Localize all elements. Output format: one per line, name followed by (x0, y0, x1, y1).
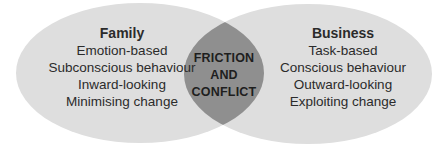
business-label-block: Business Task-based Conscious behaviour … (258, 25, 428, 110)
overlap-line: CONFLICT (184, 84, 264, 101)
business-item: Exploiting change (258, 93, 428, 110)
overlap-line: AND (184, 67, 264, 84)
business-item: Outward-looking (258, 76, 428, 93)
business-title: Business (258, 25, 428, 42)
overlap-line: FRICTION (184, 50, 264, 67)
overlap-label: FRICTION AND CONFLICT (184, 50, 264, 101)
business-item: Task-based (258, 42, 428, 59)
family-title: Family (32, 25, 212, 42)
business-item: Conscious behaviour (258, 59, 428, 76)
